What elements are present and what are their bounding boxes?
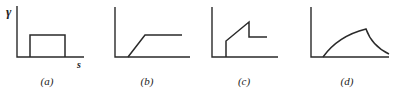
caption-a: (a) [41, 75, 54, 88]
caption-d: (d) [341, 75, 354, 88]
figure: γ s (a) (b) (c) (d) [0, 0, 399, 97]
caption-b: (b) [141, 75, 154, 88]
panel-b: (b) [115, 7, 190, 88]
caption-c: (c) [238, 75, 251, 88]
x-axis-label-s: s [76, 59, 81, 70]
panel-c: (c) [212, 7, 278, 88]
rise-decay-curve [323, 29, 389, 57]
y-axis-label-gamma: γ [6, 4, 12, 19]
panel-a: γ s (a) [6, 4, 84, 88]
axes [17, 6, 84, 57]
axes [115, 7, 190, 57]
step-ramp-step-curve [226, 22, 267, 57]
ramp-constant-curve [128, 35, 182, 57]
axes [311, 7, 389, 57]
panel-d: (d) [311, 7, 389, 88]
rectangular-pulse-curve [30, 35, 65, 57]
axes [212, 7, 278, 57]
